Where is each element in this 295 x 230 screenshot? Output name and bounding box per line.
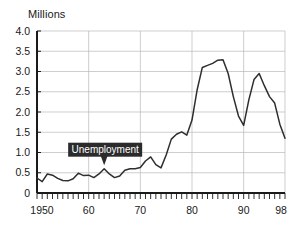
unemployment-chart: Millions 00.51.01.52.02.53.03.54.0 19506… — [0, 0, 295, 230]
callout-label: Unemployment — [72, 144, 139, 155]
unemployment-callout: Unemployment — [68, 143, 142, 166]
svg-text:1950: 1950 — [30, 204, 54, 216]
svg-text:80: 80 — [186, 204, 198, 216]
svg-text:70: 70 — [134, 204, 146, 216]
svg-text:2.0: 2.0 — [15, 106, 30, 118]
svg-text:98: 98 — [275, 204, 287, 216]
callout-arrow-icon — [101, 156, 108, 166]
x-axis-tick-labels: 19506070809098 — [30, 204, 287, 216]
svg-text:2.5: 2.5 — [15, 85, 30, 97]
unemployment-line — [37, 60, 285, 182]
y-axis-tick-labels: 00.51.01.52.02.53.03.54.0 — [15, 25, 30, 199]
svg-text:60: 60 — [83, 204, 95, 216]
svg-text:3.5: 3.5 — [15, 45, 30, 57]
svg-text:0: 0 — [24, 187, 30, 199]
svg-text:1.0: 1.0 — [15, 146, 30, 158]
svg-text:0.5: 0.5 — [15, 166, 30, 178]
svg-text:3.0: 3.0 — [15, 65, 30, 77]
chart-plot-area: 00.51.01.52.02.53.03.54.0 19506070809098… — [0, 0, 295, 230]
svg-text:90: 90 — [238, 204, 250, 216]
svg-text:4.0: 4.0 — [15, 25, 30, 37]
svg-text:1.5: 1.5 — [15, 126, 30, 138]
